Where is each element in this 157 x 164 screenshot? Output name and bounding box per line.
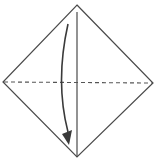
paper-square-outline (3, 5, 153, 157)
origami-diagram (0, 0, 157, 164)
